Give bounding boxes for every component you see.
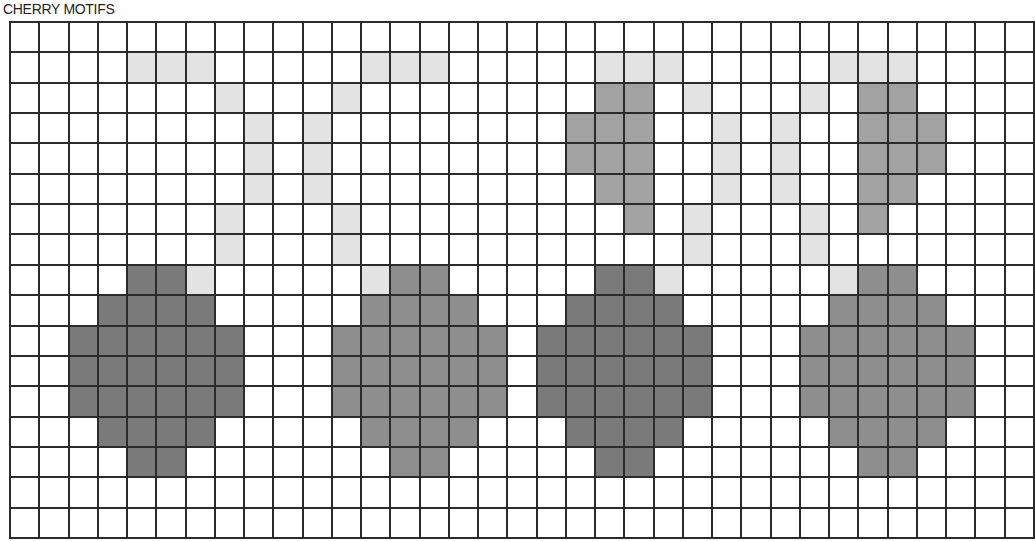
grid-cell-med <box>362 387 391 417</box>
grid-cell <box>128 235 157 265</box>
grid-cell-dark <box>99 296 128 326</box>
grid-cell <box>187 144 216 174</box>
grid-cell <box>479 114 508 144</box>
grid-cell-dark <box>625 418 654 448</box>
grid-cell-dark <box>655 418 684 448</box>
grid-cell <box>713 418 742 448</box>
grid-cell <box>479 144 508 174</box>
grid-cell <box>889 235 918 265</box>
grid-cell-med <box>391 418 420 448</box>
grid-cell-stem <box>216 205 245 235</box>
grid-cell <box>713 327 742 357</box>
grid-cell <box>333 144 362 174</box>
grid-cell <box>772 84 801 114</box>
grid-cell <box>508 53 537 83</box>
grid-cell <box>508 387 537 417</box>
grid-cell <box>889 509 918 539</box>
grid-cell <box>450 114 479 144</box>
grid-cell <box>596 478 625 508</box>
grid-cell <box>274 448 303 478</box>
grid-cell <box>713 53 742 83</box>
grid-cell-dark <box>655 296 684 326</box>
grid-cell <box>538 509 567 539</box>
grid-cell <box>274 235 303 265</box>
grid-cell <box>274 84 303 114</box>
grid-cell <box>508 84 537 114</box>
grid-cell-dark <box>684 357 713 387</box>
grid-cell <box>801 23 830 53</box>
diagram-title: CHERRY MOTIFS <box>3 1 114 17</box>
grid-cell <box>947 53 976 83</box>
grid-cell-stem <box>304 114 333 144</box>
grid-cell <box>772 266 801 296</box>
grid-cell <box>889 23 918 53</box>
grid-cell <box>976 144 1005 174</box>
grid-cell-med <box>889 266 918 296</box>
grid-cell <box>333 114 362 144</box>
grid-cell <box>128 84 157 114</box>
grid-cell-dark <box>157 418 186 448</box>
grid-cell-dark <box>187 357 216 387</box>
grid-cell-dark <box>567 357 596 387</box>
grid-cell <box>70 266 99 296</box>
grid-cell <box>216 478 245 508</box>
grid-cell <box>450 266 479 296</box>
grid-cell <box>830 23 859 53</box>
grid-cell <box>1006 266 1035 296</box>
grid-cell-med <box>859 448 888 478</box>
grid-cell-med <box>391 327 420 357</box>
grid-cell <box>11 114 40 144</box>
grid-cell <box>947 266 976 296</box>
grid-cell <box>918 478 947 508</box>
grid-cell <box>538 205 567 235</box>
grid-cell <box>450 84 479 114</box>
grid-cell <box>245 478 274 508</box>
grid-cell <box>187 509 216 539</box>
grid-cell-dark <box>684 327 713 357</box>
grid-cell <box>508 509 537 539</box>
grid-cell <box>40 235 69 265</box>
grid-cell <box>40 175 69 205</box>
grid-cell-med <box>918 357 947 387</box>
grid-cell <box>508 357 537 387</box>
grid-cell-leaf <box>859 205 888 235</box>
grid-cell <box>128 144 157 174</box>
grid-cell <box>421 509 450 539</box>
grid-cell <box>1006 357 1035 387</box>
grid-cell <box>508 448 537 478</box>
grid-cell <box>1006 114 1035 144</box>
grid-cell <box>918 23 947 53</box>
grid-cell <box>830 448 859 478</box>
grid-cell <box>742 296 771 326</box>
grid-cell <box>918 235 947 265</box>
grid-cell <box>772 448 801 478</box>
grid-cell <box>274 387 303 417</box>
grid-cell <box>421 23 450 53</box>
grid-cell-med <box>479 327 508 357</box>
grid-cell <box>40 509 69 539</box>
grid-cell <box>684 418 713 448</box>
grid-cell <box>99 266 128 296</box>
grid-cell <box>772 387 801 417</box>
grid-cell <box>772 53 801 83</box>
grid-cell-leaf <box>625 175 654 205</box>
grid-cell-med <box>859 357 888 387</box>
grid-cell-dark <box>538 387 567 417</box>
grid-cell-dark <box>625 387 654 417</box>
grid-cell-dark <box>99 327 128 357</box>
grid-cell-med <box>362 327 391 357</box>
grid-cell <box>391 23 420 53</box>
grid-cell <box>479 84 508 114</box>
grid-cell <box>684 509 713 539</box>
grid-cell <box>684 23 713 53</box>
grid-cell <box>479 509 508 539</box>
grid-cell-dark <box>70 387 99 417</box>
grid-cell <box>40 266 69 296</box>
grid-cell <box>70 509 99 539</box>
grid-cell <box>859 509 888 539</box>
grid-cell-med <box>918 387 947 417</box>
grid-cell <box>40 478 69 508</box>
grid-cell <box>947 23 976 53</box>
grid-cell <box>245 327 274 357</box>
grid-cell-med <box>362 357 391 387</box>
